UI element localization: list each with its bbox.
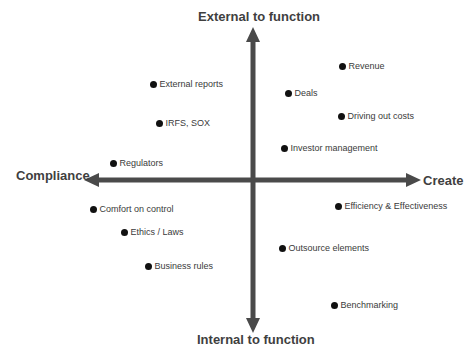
bullet-dot-icon [279,245,286,252]
bullet-dot-icon [335,203,342,210]
data-point: Comfort on control [90,202,174,216]
point-label: Driving out costs [348,111,415,121]
bullet-dot-icon [331,302,338,309]
point-label: Comfort on control [100,204,174,214]
point-label: External reports [160,79,224,89]
data-point: Efficiency & Effectiveness [335,199,448,213]
data-point: IRFS, SOX [156,116,211,130]
axis-label-bottom: Internal to function [197,332,315,347]
arrow-up-icon [246,27,260,42]
bullet-dot-icon [339,63,346,70]
arrow-down-icon [246,318,260,333]
bullet-dot-icon [281,145,288,152]
data-point: Business rules [145,259,214,273]
arrow-right-icon [406,173,421,187]
point-label: Investor management [291,143,378,153]
point-label: Outsource elements [289,243,370,253]
bullet-dot-icon [145,263,152,270]
data-point: Ethics / Laws [121,225,184,239]
point-label: Regulators [120,158,164,168]
data-point: Revenue [339,59,385,73]
bullet-dot-icon [90,206,97,213]
axis-label-right: Create [423,173,463,188]
point-label: Benchmarking [341,300,399,310]
bullet-dot-icon [121,229,128,236]
point-label: IRFS, SOX [166,118,211,128]
point-label: Ethics / Laws [131,227,184,237]
bullet-dot-icon [156,120,163,127]
bullet-dot-icon [150,81,157,88]
data-point: External reports [150,77,224,91]
data-point: Regulators [110,156,164,170]
axis-label-left: Compliance [16,168,90,183]
bullet-dot-icon [338,113,345,120]
data-point: Investor management [281,141,378,155]
point-label: Efficiency & Effectiveness [345,201,448,211]
bullet-dot-icon [110,160,117,167]
data-point: Benchmarking [331,298,399,312]
point-label: Deals [295,88,318,98]
point-label: Revenue [349,61,385,71]
data-point: Outsource elements [279,241,370,255]
data-point: Deals [285,86,318,100]
data-point: Driving out costs [338,109,415,123]
quadrant-diagram: External to function Internal to functio… [0,0,471,357]
axis-label-top: External to function [198,9,320,24]
bullet-dot-icon [285,90,292,97]
point-label: Business rules [155,261,214,271]
